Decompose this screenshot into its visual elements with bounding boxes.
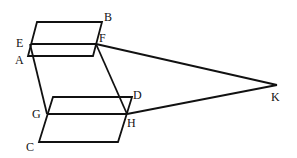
lower-parallelogram — [39, 97, 132, 142]
label-B: B — [104, 10, 112, 24]
label-C: C — [26, 140, 34, 154]
line-HK — [127, 85, 277, 114]
label-A: A — [15, 53, 24, 67]
label-F: F — [99, 31, 106, 45]
label-H: H — [127, 116, 136, 130]
label-G: G — [32, 107, 41, 121]
label-E: E — [16, 36, 23, 50]
line-EG — [30, 44, 47, 114]
geometry-diagram: B E F A D G H C K — [0, 0, 297, 158]
line-FK — [96, 44, 277, 85]
upper-parallelogram — [28, 22, 102, 56]
line-FH — [96, 44, 127, 114]
label-K: K — [271, 90, 280, 104]
diagram-canvas: B E F A D G H C K — [0, 0, 297, 158]
label-D: D — [133, 88, 142, 102]
